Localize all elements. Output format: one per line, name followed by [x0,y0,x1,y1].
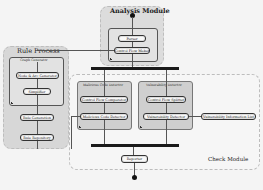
analysis-module-title: Analysis Module [110,7,170,15]
connector-line [104,70,105,96]
vulnerability-detector-node: Vulnerability Detector [143,113,189,120]
graph-generator-title: Graph Generator [20,58,48,62]
connector-line [104,103,105,113]
rule-process-title: Rule Process [17,47,60,55]
control-flow-maker-node: Control Flow Maker [114,47,150,54]
connector-line [71,116,80,117]
control-flow-splitter-node: Control Flow Splitter [146,96,186,103]
corner-marker-icon [140,126,142,128]
reporter-node: Reporter [121,155,148,163]
rule-generation-node: Rule Generation [20,114,54,121]
parser-node: Parser [118,35,146,42]
connector-line [132,54,133,67]
connector-line [132,17,133,35]
connector-line [166,120,167,144]
analysis-inner-group [108,28,158,62]
corner-marker-icon [11,102,13,104]
vulnerability-detector-title: Vulnerability Detector [146,83,182,87]
check-module-title: Check Module [208,156,248,162]
rule-repository-node: Rule Repository [20,134,54,141]
control-flow-comparator-node: Control Flow Comparator [80,96,128,103]
connector-line [37,79,38,88]
vulnerability-information-list-node: Vulnerability Information List [201,113,256,120]
join-bar [91,144,179,147]
connector-line [133,147,134,155]
connector-line [189,116,201,117]
connector-line [37,141,38,149]
connector-line [166,103,167,113]
connector-line [37,50,114,51]
simplifier-node: Simplifier [23,88,51,95]
connector-line [37,121,38,134]
connector-line [132,42,133,47]
corner-marker-icon [110,58,112,60]
malicious-code-detector-node: Malicious Code Detector [80,113,128,120]
connector-line [37,62,38,72]
connector-line [104,120,105,144]
connector-line [71,116,72,149]
node-arc-generator-node: Node & Arc Generator [16,72,59,79]
corner-marker-icon [79,126,81,128]
connector-line [166,70,167,96]
end-node-icon [132,175,137,180]
connector-line [37,95,38,114]
